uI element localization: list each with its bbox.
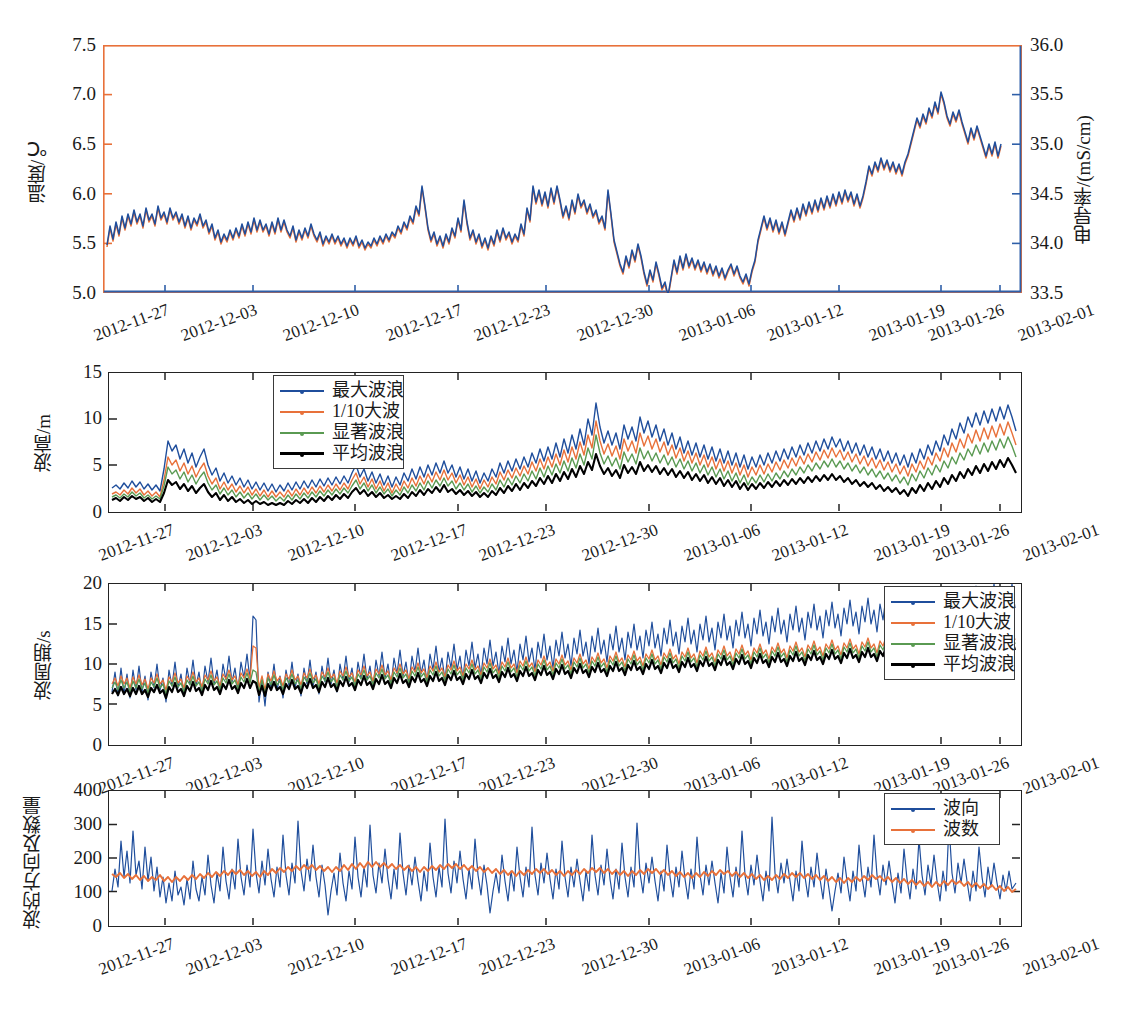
panel4-ytick-2: 200 <box>46 847 102 869</box>
panel4-xtick-5: 2012-12-30 <box>539 934 660 995</box>
panel3-y-axis-label: 波周期/s <box>30 610 57 720</box>
panel4-legend-label-0: 波向 <box>943 798 979 819</box>
panel1-ytick-left-5: 5.0 <box>52 282 96 304</box>
panel3-legend: 最大波浪 1/10大波 显著波浪 平均波浪 <box>884 586 1015 680</box>
panel2-legend-label-0: 最大波浪 <box>332 380 404 401</box>
panel1-y-axis-label-left: 温度/℃ <box>24 100 51 240</box>
panel3-legend-label-1: 1/10大波 <box>943 612 1011 633</box>
panel4-legend-label-1: 波数 <box>943 819 979 840</box>
legend-line-tenth-wave-icon <box>280 411 324 413</box>
panel4-legend: 波向 波数 <box>884 793 1000 845</box>
panel1-ytick-left-3: 6.0 <box>52 183 96 205</box>
panel3-ytick-3: 5 <box>58 694 102 716</box>
legend-line-mean-wave-icon <box>280 452 324 455</box>
panel1-ytick-left-1: 7.0 <box>52 83 96 105</box>
panel4-ytick-0: 400 <box>46 779 102 801</box>
panel4-y-axis-label: 波的方向及数量 <box>19 790 46 935</box>
panel3-ytick-4: 0 <box>58 734 102 756</box>
panel1-xtick-5: 2012-12-30 <box>534 300 655 361</box>
panel1-ytick-left-2: 6.5 <box>52 133 96 155</box>
panel1-ytick-right-5: 33.5 <box>1030 282 1080 304</box>
panel3-legend-label-2: 显著波浪 <box>943 633 1015 654</box>
panel3-legend-item-0: 最大波浪 <box>891 591 1006 612</box>
panel4-legend-item-0: 波向 <box>891 798 991 819</box>
panel1-ytick-right-2: 35.0 <box>1030 133 1080 155</box>
panel1-ytick-right-3: 34.5 <box>1030 183 1080 205</box>
legend-line-max-wave-icon <box>280 390 324 392</box>
panel4-xtick-2: 2012-12-10 <box>245 934 366 995</box>
panel2-xtick-2: 2012-12-10 <box>245 520 366 581</box>
panel1-ytick-left-0: 7.5 <box>52 34 96 56</box>
panel1-ytick-right-4: 34.0 <box>1030 232 1080 254</box>
panel3-ytick-0: 20 <box>58 572 102 594</box>
panel2-plot-area <box>108 372 1022 513</box>
panel2-xtick-5: 2012-12-30 <box>539 520 660 581</box>
panel1-ytick-right-1: 35.5 <box>1030 83 1080 105</box>
legend-line-tenth-wave-icon <box>891 622 935 624</box>
legend-line-wave-count-icon <box>891 829 935 831</box>
panel2-ytick-0: 15 <box>58 361 102 383</box>
panel2-y-axis-label: 波高/m <box>30 390 57 495</box>
legend-line-max-wave-icon <box>891 601 935 603</box>
panel2-legend-item-2: 显著波浪 <box>280 422 395 443</box>
panel4-ytick-4: 0 <box>46 915 102 937</box>
panel4-ytick-1: 300 <box>46 813 102 835</box>
panel1-svg <box>103 45 1022 293</box>
legend-line-wave-direction-icon <box>891 808 935 810</box>
panel2-legend-label-1: 1/10大波 <box>332 401 400 422</box>
panel2-svg <box>109 373 1020 511</box>
legend-line-significant-wave-icon <box>891 643 935 645</box>
panel3-ytick-1: 15 <box>58 613 102 635</box>
panel1-xtick-2: 2012-12-10 <box>240 300 361 361</box>
panel2-legend-item-3: 平均波浪 <box>280 443 395 464</box>
legend-line-significant-wave-icon <box>280 432 324 434</box>
panel3-legend-item-1: 1/10大波 <box>891 612 1006 633</box>
panel4-legend-item-1: 波数 <box>891 819 991 840</box>
panel2-ytick-3: 0 <box>58 501 102 523</box>
panel3-legend-item-2: 显著波浪 <box>891 633 1006 654</box>
panel4-ytick-3: 100 <box>46 881 102 903</box>
panel1-plot-area <box>103 45 1022 293</box>
panel1-ytick-left-4: 5.5 <box>52 232 96 254</box>
panel2-ytick-1: 10 <box>58 407 102 429</box>
panel2-legend-label-2: 显著波浪 <box>332 422 404 443</box>
panel3-ytick-2: 10 <box>58 653 102 675</box>
panel2-legend-item-1: 1/10大波 <box>280 401 395 422</box>
panel2-legend-label-3: 平均波浪 <box>332 443 404 464</box>
panel3-legend-item-3: 平均波浪 <box>891 654 1006 675</box>
panel2-legend-item-0: 最大波浪 <box>280 380 395 401</box>
panel1-ytick-right-0: 36.0 <box>1030 34 1080 56</box>
panel2-legend: 最大波浪 1/10大波 显著波浪 平均波浪 <box>273 375 404 469</box>
panel2-ytick-2: 5 <box>58 454 102 476</box>
panel3-legend-label-0: 最大波浪 <box>943 591 1015 612</box>
legend-line-mean-wave-icon <box>891 663 935 666</box>
panel3-legend-label-3: 平均波浪 <box>943 654 1015 675</box>
